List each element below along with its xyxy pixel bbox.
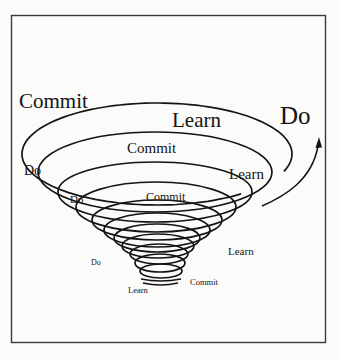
exit-arrow-head-icon bbox=[316, 137, 323, 148]
label-exit-do: Do bbox=[280, 102, 311, 129]
label-ring3-commit: Commit bbox=[146, 190, 186, 204]
spiral-tip-line bbox=[141, 279, 181, 281]
label-outer-commit: Commit bbox=[19, 89, 88, 113]
label-inner-do: Do bbox=[91, 258, 101, 267]
exit-arrow-line bbox=[262, 146, 318, 206]
label-inner-learn-right: Learn bbox=[228, 245, 254, 257]
label-ring2-do: Do bbox=[24, 163, 41, 178]
label-ring3-do: Do bbox=[70, 193, 84, 205]
label-inner-commit: Commit bbox=[190, 277, 219, 287]
figure-frame bbox=[12, 16, 326, 343]
label-ring2-learn: Learn bbox=[229, 166, 264, 182]
commit-do-learn-spiral-diagram: Commit Learn Do Do Commit Learn Do Commi… bbox=[0, 0, 339, 359]
spiral-tip-line bbox=[143, 283, 178, 285]
label-outer-learn: Learn bbox=[172, 108, 221, 132]
label-bottom-learn: Learn bbox=[128, 285, 149, 295]
label-ring2-commit: Commit bbox=[127, 140, 177, 156]
